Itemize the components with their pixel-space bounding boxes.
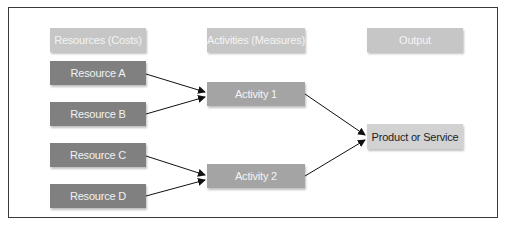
connector-arrows <box>0 0 510 235</box>
arrow-c-to-activity2 <box>146 156 205 175</box>
arrow-d-to-activity2 <box>146 180 205 196</box>
arrow-activity2-to-output <box>305 140 365 176</box>
arrow-a-to-activity1 <box>146 74 205 92</box>
arrow-activity1-to-output <box>305 94 365 135</box>
arrow-b-to-activity1 <box>146 97 205 114</box>
